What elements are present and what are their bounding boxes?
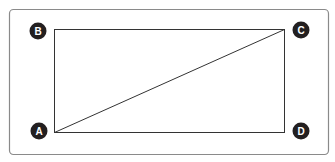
point-b-label: B <box>34 26 41 37</box>
point-c-label: C <box>297 25 304 36</box>
point-a-marker: A <box>31 123 48 140</box>
point-d-label: D <box>297 126 304 137</box>
point-a-label: A <box>35 126 42 137</box>
diagram-canvas: A B C D <box>0 0 335 162</box>
point-b-marker: B <box>30 23 47 40</box>
point-d-marker: D <box>293 123 310 140</box>
point-c-marker: C <box>293 22 310 39</box>
